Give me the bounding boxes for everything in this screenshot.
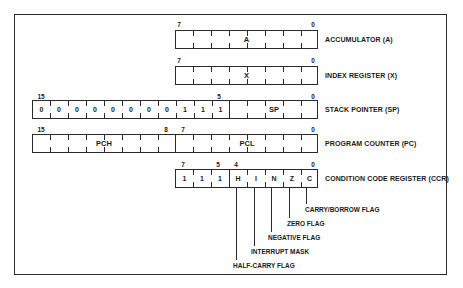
bit-cell: 0 [140,101,158,118]
bit-cell: 1 [212,101,229,118]
bit-number: 0 [311,93,315,100]
bit-cell: 0 [33,101,50,118]
leader-line-n [271,188,272,232]
bit-cell: 0 [68,101,86,118]
bit-number: 0 [311,21,315,28]
bit-cell: 0 [158,101,176,118]
flag-cell-c: C [301,170,318,187]
register-field-low: PCL [175,135,319,152]
flag-cell-i: I [247,170,265,187]
index-box: X [175,66,318,85]
register-label: CONDITION CODE REGISTER (CCR) [325,175,449,182]
bit-number: 5 [216,161,220,168]
flag-label-carry: CARRY/BORROW FLAG [305,206,380,213]
ccr-box: 1 1 1 H I N Z C [175,169,318,188]
leader-line-z [289,188,290,218]
register-field: A [176,31,317,48]
stack-pointer-box: 0 0 0 0 0 0 0 0 1 1 1 SP [32,100,318,119]
register-label: INDEX REGISTER (X) [325,72,397,79]
bit-number: 7 [177,21,181,28]
bit-number: 0 [311,57,315,64]
bit-number: 15 [37,93,44,100]
bit-cell: 0 [122,101,140,118]
leader-line-h [236,188,237,260]
register-label: ACCUMULATOR (A) [325,36,393,43]
program-counter-box: PCH PCL [32,134,318,153]
flag-label-zero: ZERO FLAG [287,220,325,227]
flag-cell-n: N [265,170,283,187]
bit-cell: 0 [104,101,122,118]
register-field: X [176,67,317,84]
bit-cell: 1 [176,101,194,118]
flag-label-half-carry: HALF-CARRY FLAG [233,262,295,269]
bit-cell: 0 [50,101,68,118]
bit-number: 0 [311,161,315,168]
accumulator-box: A [175,30,318,49]
bit-number: 4 [234,161,238,168]
flag-label-interrupt: INTERRUPT MASK [251,248,309,255]
leader-line-i [254,188,255,246]
bit-number: 7 [177,57,181,64]
register-field: SP [229,101,319,118]
flag-cell-h: H [229,170,247,187]
bit-number: 8 [164,126,168,133]
bit-number: 15 [37,126,44,133]
bit-number: 7 [181,161,185,168]
bit-cell: 1 [176,170,193,187]
bit-number: 5 [217,93,221,100]
bit-cell: 0 [86,101,104,118]
leader-line-c [306,188,307,204]
flag-label-negative: NEGATIVE FLAG [268,234,320,241]
register-field-high: PCH [33,135,175,152]
bit-cell: 1 [193,170,211,187]
bit-cell: 1 [211,170,229,187]
register-label: STACK POINTER (SP) [325,106,399,113]
register-label: PROGRAM COUNTER (PC) [325,140,416,147]
bit-number: 0 [311,126,315,133]
bit-cell: 1 [194,101,212,118]
flag-cell-z: Z [283,170,301,187]
bit-number: 7 [181,126,185,133]
